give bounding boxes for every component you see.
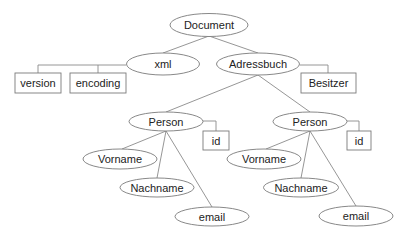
edge-person2-nachname (301, 131, 310, 178)
node-person-2-label: Person (293, 116, 328, 128)
node-person-1-nachname-label: Nachname (130, 182, 183, 194)
node-adressbuch: Adressbuch (217, 53, 300, 75)
node-person-2-id: id (347, 131, 371, 150)
edge-person1-nachname (157, 131, 166, 178)
node-encoding-label: encoding (76, 77, 121, 89)
node-person-1-id-label: id (212, 135, 221, 147)
node-person-1-id: id (203, 131, 229, 150)
edge-document-adressbuch (209, 36, 258, 53)
node-person-1-email-label: email (199, 211, 225, 223)
node-person-1-email: email (175, 207, 249, 226)
node-document: Document (170, 14, 248, 37)
node-person-2-id-label: id (355, 135, 364, 147)
node-person-2-email: email (319, 206, 393, 226)
node-person-1-vorname-label: Vorname (98, 153, 142, 165)
node-person-2: Person (273, 112, 347, 131)
edge-person1-vorname (122, 131, 166, 149)
edge-person2-id (347, 121, 359, 131)
node-document-label: Document (184, 19, 234, 31)
edge-adressbuch-person1 (166, 75, 258, 112)
node-version-label: version (20, 77, 55, 89)
node-encoding: encoding (70, 73, 126, 93)
edge-document-xml (163, 36, 209, 53)
node-besitzer: Besitzer (301, 73, 356, 93)
node-xml-label: xml (154, 58, 171, 70)
node-person-1: Person (129, 112, 203, 131)
node-person-2-nachname: Nachname (264, 178, 339, 197)
node-adressbuch-label: Adressbuch (229, 58, 287, 70)
node-person-2-vorname: Vorname (227, 149, 301, 169)
edge-adressbuch-besitzer (300, 65, 328, 73)
node-person-2-nachname-label: Nachname (274, 182, 327, 194)
node-person-1-vorname: Vorname (83, 149, 157, 169)
node-person-2-vorname-label: Vorname (242, 153, 286, 165)
edge-person1-id (203, 121, 216, 131)
xml-tree-diagram: Document xml version encoding Adressbuch… (0, 0, 407, 235)
node-version: version (15, 73, 61, 93)
node-xml: xml (127, 53, 200, 75)
node-person-1-nachname: Nachname (120, 178, 194, 197)
edge-person2-vorname (266, 131, 310, 149)
node-person-1-label: Person (149, 116, 184, 128)
edge-xml-version (38, 65, 126, 73)
node-person-2-email-label: email (343, 210, 369, 222)
node-besitzer-label: Besitzer (309, 77, 349, 89)
